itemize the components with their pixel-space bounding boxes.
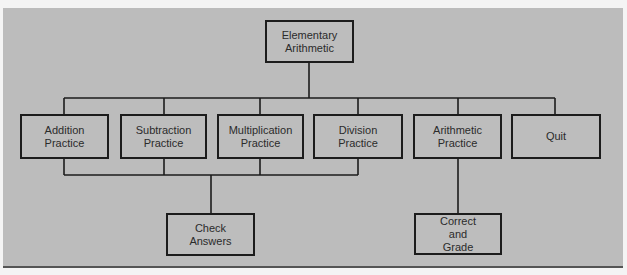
node-label: Quit xyxy=(546,130,566,143)
node-label: Check Answers xyxy=(189,222,231,248)
node-addition-practice[interactable]: Addition Practice xyxy=(20,114,109,159)
node-label: Multiplication Practice xyxy=(229,124,293,150)
node-label: Division Practice xyxy=(338,124,378,150)
node-division-practice[interactable]: Division Practice xyxy=(313,114,403,159)
node-quit[interactable]: Quit xyxy=(511,114,601,159)
node-multiplication-practice[interactable]: Multiplication Practice xyxy=(217,114,304,159)
node-label: Elementary Arithmetic xyxy=(282,29,338,55)
bottom-rule xyxy=(3,266,623,268)
node-label: Correct and Grade xyxy=(440,215,476,254)
node-arithmetic-practice[interactable]: Arithmetic Practice xyxy=(413,114,502,159)
node-correct-and-grade[interactable]: Correct and Grade xyxy=(414,213,502,255)
node-subtraction-practice[interactable]: Subtraction Practice xyxy=(120,114,207,159)
node-elementary-arithmetic[interactable]: Elementary Arithmetic xyxy=(265,20,354,63)
node-check-answers[interactable]: Check Answers xyxy=(166,213,255,256)
node-label: Subtraction Practice xyxy=(136,124,192,150)
node-label: Addition Practice xyxy=(45,124,85,150)
node-label: Arithmetic Practice xyxy=(433,124,482,150)
